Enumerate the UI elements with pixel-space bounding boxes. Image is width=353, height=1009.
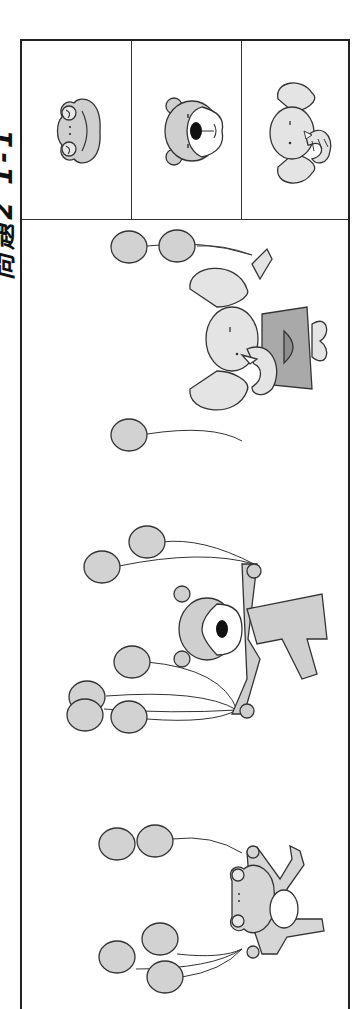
choice-bear[interactable] [132,41,242,219]
animals-with-balloons-illustration [22,219,352,1009]
question-frame [20,39,350,1009]
page-title: 問題2 1-1 [0,50,18,280]
bear-face-icon [132,41,242,219]
elephant-with-balloons [111,230,327,451]
balloon-scene [22,219,348,1009]
choice-elephant[interactable] [242,41,348,219]
bear-with-balloons [67,526,327,733]
frog-face-icon [22,41,132,219]
choice-frog[interactable] [22,41,132,219]
frog-with-balloons [99,825,324,993]
answer-choices [22,41,348,220]
elephant-face-icon [242,41,348,219]
